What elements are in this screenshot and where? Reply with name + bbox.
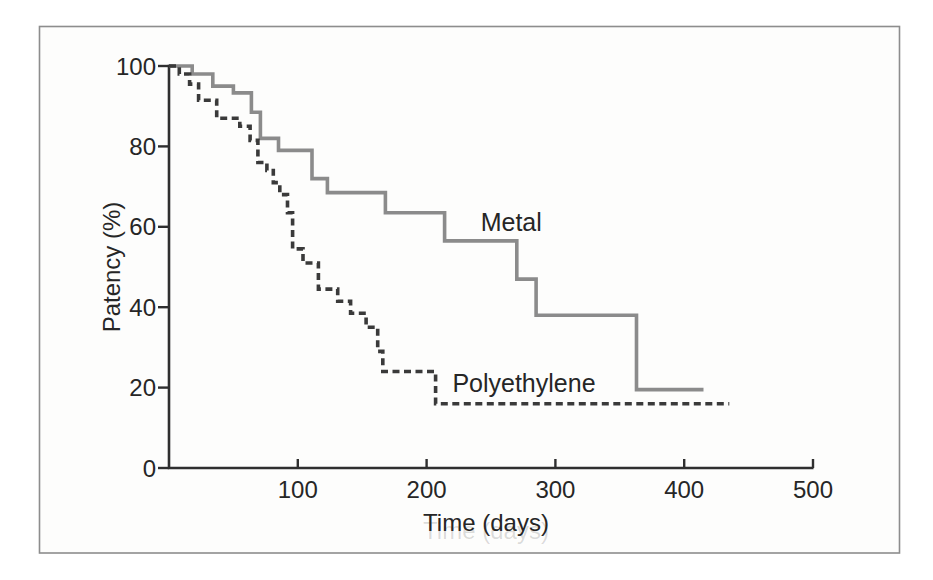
x-tick-label: 500 xyxy=(793,476,833,503)
km-chart-svg: 020406080100 100200300400500 Metal Polye… xyxy=(0,0,933,580)
y-tick-label: 40 xyxy=(129,294,156,321)
series-label-metal: Metal xyxy=(481,208,542,236)
y-axis-title: Patency (%) xyxy=(98,202,125,333)
figure-canvas: 020406080100 100200300400500 Metal Polye… xyxy=(0,0,933,580)
x-tick-label: 400 xyxy=(664,476,704,503)
x-tick-label: 100 xyxy=(278,476,318,503)
y-tick-label: 20 xyxy=(129,374,156,401)
y-tick-label: 80 xyxy=(129,133,156,160)
y-tick-label: 60 xyxy=(129,213,156,240)
y-tick-label: 0 xyxy=(143,455,156,482)
series-label-polyethylene: Polyethylene xyxy=(452,369,595,397)
x-tick-label: 300 xyxy=(535,476,575,503)
y-tick-label: 100 xyxy=(116,53,156,80)
x-axis-title: Time (days) xyxy=(423,509,549,536)
x-tick-label: 200 xyxy=(407,476,447,503)
